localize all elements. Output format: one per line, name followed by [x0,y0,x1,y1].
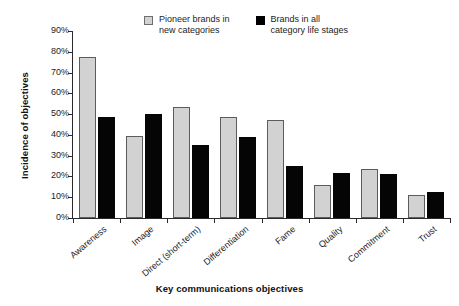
black-square-swatch-icon [256,16,265,25]
y-tick-label: 90% [35,25,69,35]
y-axis-line [72,31,73,219]
y-tick-label: 20% [35,170,69,180]
x-category-label-text: Quality [316,224,344,250]
plot-area: 0%10%20%30%40%50%60%70%80%90% AwarenessI… [73,31,450,218]
bar-group [314,31,350,218]
bar [333,173,350,218]
bar-group [126,31,162,218]
bar [173,107,190,218]
x-tick-mark [73,218,74,223]
gray-square-swatch-icon [144,16,153,25]
y-tick-label: 50% [35,108,69,118]
bar [98,117,115,218]
y-axis-title: Incidence of objectives [19,46,30,206]
bar-chart: Pioneer brands in new categories Brands … [0,0,459,306]
y-tick-label: 0% [35,212,69,222]
bar [314,185,331,218]
y-tick-label: 40% [35,129,69,139]
bar-group [361,31,397,218]
x-category-label-text: Commitment [346,224,392,264]
bar-group [408,31,444,218]
x-category-label-text: Trust [417,224,439,245]
bar [380,174,397,218]
y-tick-label: 70% [35,67,69,77]
x-category-label-text: Differentiation [201,224,250,267]
bar [145,114,162,218]
bar [192,145,209,218]
x-axis-title: Key communications objectives [0,283,459,294]
x-category-label-text: Awareness [68,224,108,260]
y-tick-label: 80% [35,46,69,56]
bar [239,137,256,218]
bar [79,57,96,218]
y-tick-label: 60% [35,87,69,97]
x-category-label-text: Image [130,224,156,248]
x-category-label-text: Fame [273,224,297,246]
bar-group [173,31,209,218]
y-tick-label: 30% [35,150,69,160]
y-tick-label: 10% [35,191,69,201]
bar-group [79,31,115,218]
